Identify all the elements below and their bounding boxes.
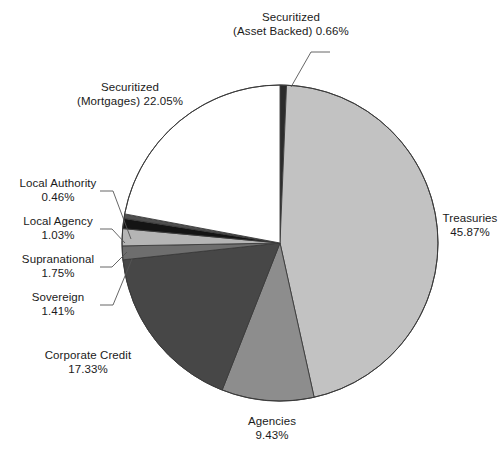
slice-label-mortgages: Securitized (Mortgages) 22.05% [56, 80, 204, 108]
slice-label-local-authority: Local Authority 0.46% [2, 176, 114, 204]
slice-label-line-1: Securitized [216, 10, 366, 24]
slice-label-line-1: Local Authority [2, 176, 114, 190]
slice-label-treasuries: Treasuries 45.87% [440, 211, 500, 239]
slice-label-line-1: Treasuries [440, 211, 500, 225]
slice-label-line-1: Corporate Credit [22, 348, 154, 362]
slice-label-line-2: (Mortgages) 22.05% [56, 94, 204, 108]
slice-label-local-agency: Local Agency 1.03% [2, 214, 114, 242]
slice-label-sovereign: Sovereign 1.41% [2, 290, 114, 318]
slice-label-line-2: 0.46% [2, 190, 114, 204]
leader-line-asset-backed [291, 52, 330, 87]
slice-label-corporate-credit: Corporate Credit 17.33% [22, 348, 154, 376]
slice-label-line-2: 1.75% [2, 266, 114, 280]
slice-label-line-2: (Asset Backed) 0.66% [216, 24, 366, 38]
slice-label-line-2: 1.41% [2, 304, 114, 318]
slice-label-line-1: Sovereign [2, 290, 114, 304]
slice-label-line-1: Supranational [2, 252, 114, 266]
slice-label-agencies: Agencies 9.43% [218, 414, 326, 442]
slice-label-line-1: Securitized [56, 80, 204, 94]
slice-label-line-2: 45.87% [440, 225, 500, 239]
slice-label-line-1: Local Agency [2, 214, 114, 228]
slice-label-line-2: 9.43% [218, 428, 326, 442]
pie-chart-figure: Securitized (Asset Backed) 0.66% Securit… [0, 0, 501, 457]
slice-label-line-2: 17.33% [22, 362, 154, 376]
slice-label-asset-backed: Securitized (Asset Backed) 0.66% [216, 10, 366, 38]
slice-label-line-1: Agencies [218, 414, 326, 428]
slice-label-supranational: Supranational 1.75% [2, 252, 114, 280]
pie-slice-group [122, 85, 438, 401]
slice-label-line-2: 1.03% [2, 228, 114, 242]
